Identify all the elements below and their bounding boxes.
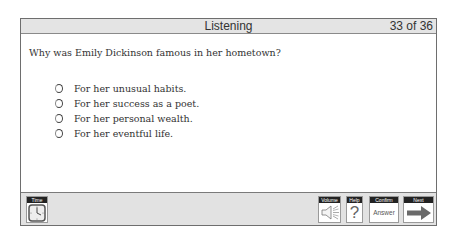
answer-options: For her unusual habits. For her success … xyxy=(55,81,199,141)
volume-caption: Volume xyxy=(319,197,340,203)
answer-option-2[interactable]: For her success as a poet. xyxy=(55,96,199,111)
section-title: Listening xyxy=(21,19,436,33)
help-button[interactable]: Help ? xyxy=(346,196,363,223)
time-button[interactable]: Time xyxy=(26,196,48,223)
bottom-toolbar: Time Volume xyxy=(21,192,436,225)
answer-option-4[interactable]: For her eventful life. xyxy=(55,126,199,141)
option-label: For her personal wealth. xyxy=(74,113,193,124)
radio-button[interactable] xyxy=(55,84,63,93)
speaker-icon xyxy=(319,203,340,222)
question-counter: 33 of 36 xyxy=(390,19,433,33)
question-mark-icon: ? xyxy=(347,203,362,222)
volume-button[interactable]: Volume xyxy=(318,196,341,223)
right-arrow-icon xyxy=(404,203,433,222)
option-label: For her unusual habits. xyxy=(74,83,186,94)
next-button[interactable]: Next xyxy=(403,196,434,223)
test-window: Listening 33 of 36 Why was Emily Dickins… xyxy=(20,18,437,226)
answer-option-3[interactable]: For her personal wealth. xyxy=(55,111,199,126)
confirm-answer-button[interactable]: Confirm Answer xyxy=(369,196,399,223)
radio-button[interactable] xyxy=(55,99,63,108)
answer-option-1[interactable]: For her unusual habits. xyxy=(55,81,199,96)
title-bar: Listening 33 of 36 xyxy=(21,19,436,34)
option-label: For her eventful life. xyxy=(74,128,173,139)
radio-button[interactable] xyxy=(55,114,63,123)
clock-icon xyxy=(27,203,47,222)
option-label: For her success as a poet. xyxy=(74,98,199,109)
confirm-label: Answer xyxy=(373,209,395,216)
question-text: Why was Emily Dickinson famous in her ho… xyxy=(29,47,281,58)
radio-button[interactable] xyxy=(55,129,63,138)
